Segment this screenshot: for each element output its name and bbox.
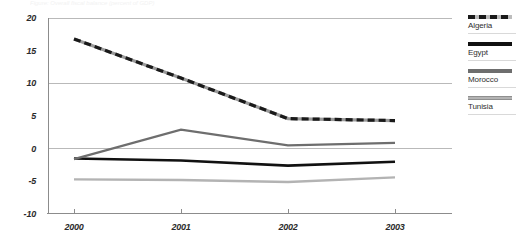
x-axis-tick: 2001	[171, 222, 190, 232]
legend-swatch-icon	[468, 42, 512, 46]
series-line-egypt	[74, 158, 395, 165]
legend-label: Morocco	[468, 75, 522, 85]
chart-legend: AlgeriaEgyptMoroccoTunisia	[468, 15, 522, 123]
legend-swatch-icon	[468, 69, 512, 73]
x-axis-tick: 2000	[64, 222, 83, 232]
legend-label: Egypt	[468, 48, 522, 58]
y-axis-tick: -5	[28, 176, 36, 186]
series-line-tunisia	[74, 177, 395, 182]
x-axis-tick-labels: 2000200120022003	[47, 222, 452, 236]
plot-area	[47, 18, 452, 214]
y-axis-tick: 10	[26, 78, 36, 88]
legend-label: Algeria	[468, 21, 522, 31]
figure-caption: Figure: Overall fiscal balance (percent …	[30, 0, 330, 8]
legend-divider	[468, 33, 516, 34]
legend-swatch-icon	[468, 96, 512, 100]
legend-label: Tunisia	[468, 102, 522, 112]
chart-figure: Figure: Overall fiscal balance (percent …	[0, 0, 522, 247]
legend-entry-tunisia[interactable]: Tunisia	[468, 96, 522, 115]
y-axis-tick: 5	[31, 111, 36, 121]
y-axis-tick: -10	[24, 209, 36, 219]
y-axis-tick: 20	[26, 13, 36, 23]
series-line-underlay-algeria	[74, 39, 395, 121]
y-axis-tick-labels: 20151050-5-10	[0, 18, 43, 214]
y-axis-tick: 0	[31, 144, 36, 154]
legend-entry-morocco[interactable]: Morocco	[468, 69, 522, 88]
legend-divider	[468, 60, 516, 61]
x-axis-tick: 2003	[385, 222, 404, 232]
legend-swatch-icon	[468, 15, 512, 19]
legend-entry-egypt[interactable]: Egypt	[468, 42, 522, 61]
series-line-morocco	[74, 130, 395, 159]
y-axis-tick: 15	[26, 46, 36, 56]
legend-entry-algeria[interactable]: Algeria	[468, 15, 522, 34]
series-line-algeria	[74, 39, 395, 121]
legend-divider	[468, 114, 516, 115]
x-axis-tick: 2002	[278, 222, 297, 232]
legend-divider	[468, 87, 516, 88]
line-chart-canvas	[47, 18, 452, 214]
